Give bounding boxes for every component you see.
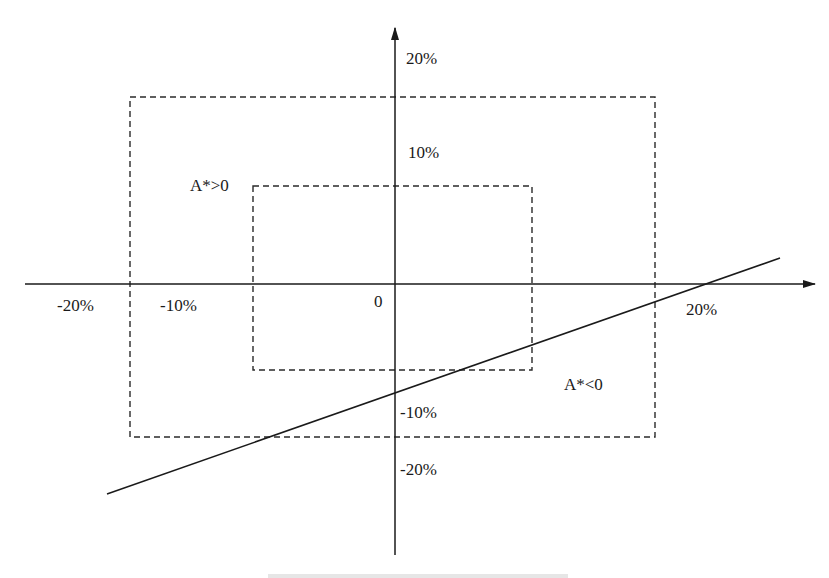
inner-dashed-rectangle	[253, 186, 532, 370]
y-tick-label-neg20: -20%	[400, 461, 437, 478]
region-label-positive: A*>0	[190, 177, 229, 194]
y-tick-label-20: 20%	[406, 50, 437, 67]
diagram-canvas	[0, 0, 829, 578]
caption-cutoff	[268, 574, 568, 578]
x-tick-label-neg20: -20%	[57, 297, 94, 314]
x-tick-label-neg10: -10%	[160, 297, 197, 314]
y-tick-label-10: 10%	[408, 144, 439, 161]
y-tick-label-neg10: -10%	[400, 404, 437, 421]
boundary-line	[107, 258, 780, 494]
region-label-negative: A*<0	[564, 376, 603, 393]
x-tick-label-20: 20%	[686, 301, 717, 318]
origin-label: 0	[374, 293, 383, 310]
